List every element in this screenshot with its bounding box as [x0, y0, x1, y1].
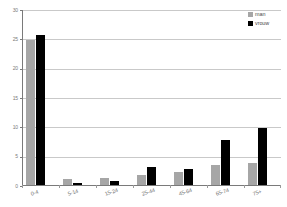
bar-man-25-44 [137, 175, 146, 185]
x-axis-tick-mark [207, 185, 208, 188]
bar-group [22, 10, 59, 185]
x-axis-tick-mark [280, 185, 281, 188]
legend-swatch-icon-man [248, 12, 253, 17]
bar-vrouw-25-44 [147, 167, 156, 185]
bar-man-45-64 [174, 172, 183, 185]
x-axis-tick-mark [244, 185, 245, 188]
x-axis-label-0-4: 0-4 [30, 189, 39, 197]
x-axis-tick-mark [170, 185, 171, 188]
bar-vrouw-0-4 [36, 35, 45, 185]
x-axis-tick-mark [133, 185, 134, 188]
x-axis-label-5-14: 5-14 [67, 188, 79, 197]
bar-man-65-74 [211, 165, 220, 185]
bar-group [244, 10, 281, 185]
legend-swatch-icon-vrouw [248, 21, 253, 26]
x-axis-label-45-64: 45-64 [178, 187, 193, 197]
legend-item-vrouw[interactable]: vrouw [248, 20, 269, 26]
bar-group [59, 10, 96, 185]
bar-vrouw-45-64 [184, 169, 193, 185]
bar-vrouw-65-74 [221, 140, 230, 185]
x-axis-tick-mark [96, 185, 97, 188]
bar-group [170, 10, 207, 185]
x-axis-tick-mark [59, 185, 60, 188]
y-axis-tick-label: 5 [2, 154, 18, 159]
x-axis-label-15-24: 15-24 [104, 187, 119, 197]
bar-man-5-14 [63, 179, 72, 185]
bar-man-75+ [248, 163, 257, 185]
x-axis-tick-mark [22, 185, 23, 188]
bar-vrouw-15-24 [110, 181, 119, 185]
plot-area [22, 10, 281, 186]
y-axis-tick-label: 10 [2, 125, 18, 130]
y-axis-tick-label: 0 [2, 184, 18, 189]
legend-label-man: man [255, 11, 265, 17]
bar-vrouw-5-14 [73, 183, 82, 185]
bar-group [96, 10, 133, 185]
bar-man-15-24 [100, 178, 109, 185]
x-axis-label-65-74: 65-74 [215, 187, 230, 197]
y-axis-tick-label: 20 [2, 66, 18, 71]
bar-man-0-4 [26, 40, 35, 185]
bar-vrouw-75+ [258, 128, 267, 185]
bar-group [207, 10, 244, 185]
bar-chart: 051015202530 0-45-1415-2425-4445-6465-74… [0, 0, 287, 207]
x-axis-label-25-44: 25-44 [141, 187, 156, 197]
bar-series-container [22, 10, 281, 186]
y-axis-tick-label: 30 [2, 8, 18, 13]
bar-group [133, 10, 170, 185]
x-axis-label-75+: 75+ [252, 188, 262, 196]
chart-legend: manvrouw [248, 11, 269, 26]
legend-label-vrouw: vrouw [255, 20, 269, 26]
y-axis-tick-label: 15 [2, 96, 18, 101]
y-axis-tick-label: 25 [2, 37, 18, 42]
legend-item-man[interactable]: man [248, 11, 269, 17]
